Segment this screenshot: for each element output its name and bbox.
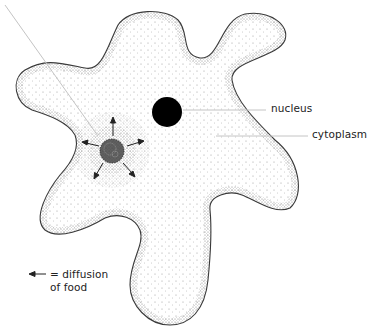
cytoplasm-label: cytoplasm — [312, 128, 367, 140]
legend-text-line2: of food — [50, 281, 87, 293]
food-vacuole — [100, 139, 124, 163]
nucleus — [152, 97, 182, 127]
nucleus-label: nucleus — [271, 102, 312, 114]
legend-text-line1: = diffusion — [50, 268, 108, 280]
legend-arrow-icon — [29, 272, 46, 277]
